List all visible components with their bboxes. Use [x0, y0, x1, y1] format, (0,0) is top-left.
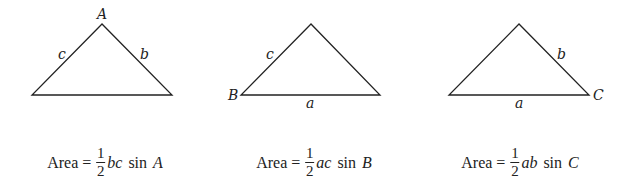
denominator: 2: [97, 164, 105, 179]
denominator: 2: [511, 164, 519, 179]
triangle-c: C b a: [449, 24, 604, 111]
numerator: 1: [97, 146, 105, 161]
side-label-a: a: [515, 95, 523, 111]
vertex-label-b: B: [227, 87, 238, 103]
side-label-a: a: [306, 95, 314, 111]
triangle-shape: [449, 24, 589, 95]
formula-prefix: Area =: [256, 154, 300, 172]
triangle-shape: [32, 24, 172, 95]
numerator: 1: [511, 146, 519, 161]
formula-prefix: Area =: [461, 154, 505, 172]
vertex-label-a: A: [95, 6, 107, 22]
formula-angle: C: [568, 154, 579, 172]
fraction-half: 1 2: [96, 146, 105, 179]
area-formula-b: Area = 1 2 ac sin B: [256, 146, 372, 179]
formula-func: sin: [543, 154, 562, 172]
vertex-label-c: C: [593, 87, 604, 103]
formula-prefix: Area =: [47, 154, 91, 172]
triangle-shape: [241, 24, 380, 95]
side-label-b: b: [140, 46, 149, 62]
triangle-b: B c a: [227, 24, 380, 111]
formula-angle: B: [362, 154, 372, 172]
fraction-half: 1 2: [510, 146, 519, 179]
fraction-half: 1 2: [305, 146, 314, 179]
formula-angle: A: [153, 154, 163, 172]
area-formula-c: Area = 1 2 ab sin C: [461, 146, 578, 179]
denominator: 2: [306, 164, 314, 179]
formula-sides: ac: [316, 154, 331, 172]
side-label-c: c: [58, 46, 66, 62]
triangle-a: A c b: [32, 6, 172, 95]
formula-sides: bc: [107, 154, 122, 172]
formula-sides: ab: [521, 154, 537, 172]
numerator: 1: [306, 146, 314, 161]
formula-func: sin: [128, 154, 147, 172]
formula-func: sin: [337, 154, 356, 172]
side-label-c: c: [266, 46, 274, 62]
area-formula-a: Area = 1 2 bc sin A: [47, 146, 163, 179]
side-label-b: b: [557, 46, 566, 62]
